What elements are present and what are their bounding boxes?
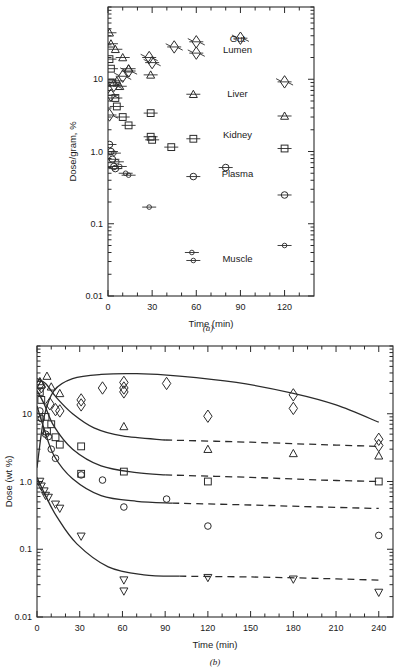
data-points-group (36, 372, 383, 596)
series-label: Lumen (223, 44, 252, 55)
marker-whisker (200, 42, 205, 45)
y-tick-label: 1.0 (19, 477, 32, 487)
x-axis-title: Time (min) (192, 639, 237, 650)
x-tick-label: 60 (117, 623, 127, 633)
y-tick-label: 0.1 (19, 544, 32, 554)
marker-diamond (77, 399, 85, 411)
marker-whisker (114, 73, 119, 76)
fit-curves-group (37, 374, 379, 581)
marker-whisker (156, 63, 161, 66)
marker-triangle-up (56, 389, 64, 396)
marker-triangle-down (77, 533, 85, 540)
panel-b-chart: 0306090120150180210240101.00.10.01Time (… (0, 336, 404, 672)
marker-triangle-up (375, 452, 383, 459)
marker-whisker (141, 54, 146, 57)
fit-curve-solid (37, 406, 172, 503)
marker-circle (163, 496, 170, 503)
x-tick-label: 240 (371, 623, 386, 633)
marker-circle (205, 523, 212, 530)
x-tick-label: 180 (286, 623, 301, 633)
marker-triangle-down (120, 588, 128, 595)
marker-whisker (166, 44, 171, 47)
panel-b: 0306090120150180210240101.00.10.01Time (… (0, 336, 404, 672)
fit-curve-solid (37, 391, 165, 475)
marker-diamond (289, 402, 297, 414)
marker-circle (121, 504, 128, 511)
series-label: Gut (230, 33, 246, 44)
figure-container: 0306090120101.00.10.01Time (min)Dose/gra… (0, 0, 404, 672)
series-label: Kidney (223, 129, 252, 140)
marker-triangle-up (43, 372, 51, 379)
marker-whisker (188, 39, 193, 42)
fit-curve-solid (37, 477, 179, 576)
marker-square (204, 478, 211, 485)
marker-whisker (102, 92, 107, 95)
x-tick-label: 0 (105, 302, 110, 312)
marker-diamond (162, 377, 170, 389)
series-label: Muscle (222, 253, 252, 264)
marker-whisker (101, 112, 106, 115)
marker-diamond (204, 410, 212, 422)
marker-whisker (178, 48, 183, 51)
marker-square (52, 434, 59, 441)
fit-curve-dashed (165, 475, 379, 482)
x-tick-label: 210 (329, 623, 344, 633)
x-tick-label: 120 (200, 623, 215, 633)
x-tick-label: 90 (235, 302, 245, 312)
x-tick-label: 90 (160, 623, 170, 633)
marker-diamond (98, 382, 106, 394)
marker-triangle-down (204, 574, 212, 581)
panel-caption: (b) (210, 657, 221, 667)
series-label: Plasma (222, 168, 254, 179)
marker-diamond (56, 405, 64, 417)
panel-caption: (a) (203, 323, 214, 333)
y-tick-label: 0.1 (90, 219, 103, 229)
x-tick-label: 30 (147, 302, 157, 312)
plot-frame (37, 346, 393, 617)
marker-triangle-up (289, 449, 297, 456)
x-tick-label: 150 (243, 623, 258, 633)
fit-curve-dashed (172, 503, 378, 508)
panel-a-chart: 0306090120101.00.10.01Time (min)Dose/gra… (0, 0, 404, 336)
marker-square (78, 443, 85, 450)
y-tick-label: 1.0 (90, 147, 103, 157)
y-tick-label: 0.01 (85, 291, 103, 301)
marker-diamond (289, 389, 297, 401)
marker-triangle-up (204, 445, 212, 452)
marker-whisker (288, 82, 293, 85)
x-tick-label: 0 (34, 623, 39, 633)
marker-whisker (200, 54, 205, 57)
marker-triangle-up (120, 422, 128, 429)
y-tick-label: 10 (22, 409, 32, 419)
fit-curve-solid (37, 374, 379, 468)
marker-triangle-down (375, 589, 383, 596)
panel-a: 0306090120101.00.10.01Time (min)Dose/gra… (0, 0, 404, 336)
data-points-group: GutLumenLiverKidneyPlasmaMuscle (101, 29, 293, 264)
x-tick-label: 60 (191, 302, 201, 312)
marker-whisker (276, 79, 281, 82)
y-axis-title: Dose (wt %) (3, 456, 14, 508)
y-tick-label: 0.01 (14, 612, 32, 622)
marker-square (56, 441, 63, 448)
x-tick-label: 120 (277, 302, 292, 312)
fit-curve-dashed (165, 440, 379, 446)
x-tick-label: 30 (75, 623, 85, 633)
series-label: Liver (227, 88, 248, 99)
marker-diamond (77, 394, 85, 406)
marker-triangle-down (120, 577, 128, 584)
marker-square (375, 478, 382, 485)
marker-diamond (120, 386, 128, 398)
marker-whisker (188, 50, 193, 53)
marker-circle (375, 532, 382, 539)
marker-circle (99, 477, 106, 484)
y-tick-label: 10 (93, 74, 103, 84)
y-axis-title: Dose/gram, % (67, 121, 78, 182)
